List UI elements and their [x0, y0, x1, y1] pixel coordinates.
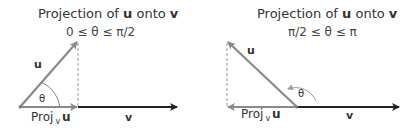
left-title: Projection of u onto v: [38, 6, 178, 21]
right-theta-label: θ: [298, 88, 304, 99]
right-proj-label: Projvu: [241, 107, 281, 123]
vector-u: [228, 42, 297, 107]
left-range: 0 ≤ θ ≤ π/2: [66, 25, 135, 39]
right-u-label: u: [247, 44, 255, 57]
left-u-label: u: [34, 58, 42, 71]
left-proj-label: Projvu: [31, 110, 71, 126]
right-range: π/2 ≤ θ ≤ π: [288, 25, 357, 39]
right-title: Projection of u onto v: [257, 6, 397, 21]
left-theta-label: θ: [39, 93, 45, 104]
left-v-label: v: [125, 111, 132, 124]
vector-u: [20, 42, 77, 107]
right-v-label: v: [346, 109, 353, 122]
